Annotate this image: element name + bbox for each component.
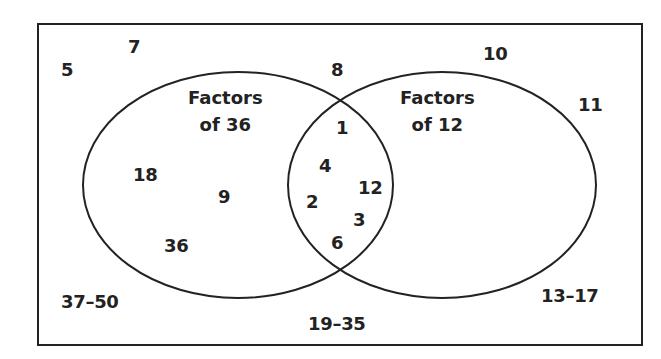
- element-36: 36: [164, 237, 188, 255]
- set-title-line: Factors: [188, 84, 263, 111]
- element-5: 5: [61, 61, 73, 79]
- element-11: 11: [578, 96, 602, 114]
- element-4: 4: [319, 157, 331, 175]
- set-title-line: Factors: [400, 84, 475, 111]
- element-8: 8: [331, 61, 343, 79]
- element-10: 10: [483, 45, 507, 63]
- set-title-line: of 12: [400, 111, 475, 138]
- element-12: 12: [358, 179, 382, 197]
- element-3: 3: [353, 211, 365, 229]
- set-title-factors-of-12: Factors of 12: [400, 84, 475, 138]
- set-title-factors-of-36: Factors of 36: [188, 84, 263, 138]
- element-range-13-17: 13–17: [541, 287, 599, 305]
- element-2: 2: [306, 193, 318, 211]
- element-18: 18: [133, 166, 157, 184]
- element-6: 6: [331, 234, 343, 252]
- element-range-37-50: 37–50: [61, 293, 119, 311]
- element-9: 9: [218, 188, 230, 206]
- element-range-19-35: 19–35: [308, 315, 366, 333]
- element-1: 1: [336, 119, 348, 137]
- element-7: 7: [128, 38, 140, 56]
- set-title-line: of 36: [188, 111, 263, 138]
